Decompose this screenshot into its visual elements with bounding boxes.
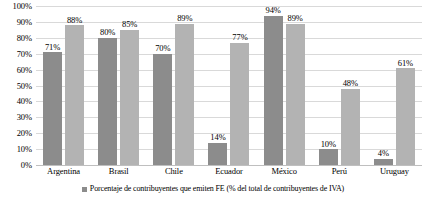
bar-slot: 14%	[208, 6, 227, 165]
y-axis-tick-label: 100%	[0, 2, 32, 11]
bar-value-label: 14%	[210, 133, 225, 142]
y-axis-tick-label: 10%	[0, 145, 32, 154]
bar[interactable]	[319, 149, 338, 165]
bar-group: 70%89%	[146, 6, 201, 165]
bar-slot: 4%	[374, 6, 393, 165]
y-axis-tick-label: 40%	[0, 97, 32, 106]
bar[interactable]	[230, 43, 249, 165]
bar[interactable]	[65, 25, 84, 165]
bar-group: 10%48%	[312, 6, 367, 165]
bar-slot: 61%	[396, 6, 415, 165]
x-axis-category-label: Uruguay	[367, 167, 422, 176]
y-axis-tick-label: 20%	[0, 129, 32, 138]
bar-slot: 88%	[65, 6, 84, 165]
bar-slot: 80%	[98, 6, 117, 165]
plot-area: 71%88%80%85%70%89%14%77%94%89%10%48%4%61…	[36, 6, 422, 165]
y-axis-tick-label: 90%	[0, 18, 32, 27]
bar-slot: 70%	[153, 6, 172, 165]
x-axis-category-label: Ecuador	[201, 167, 256, 176]
y-axis: 100%90%80%70%60%50%40%30%20%10%0%	[0, 6, 32, 165]
x-axis-category-label: Brasil	[91, 167, 146, 176]
legend-label: Porcentaje de contribuyentes que emiten …	[90, 185, 344, 193]
y-axis-tick-label: 80%	[0, 34, 32, 43]
bar-slot: 89%	[286, 6, 305, 165]
bar-group: 94%89%	[257, 6, 312, 165]
chart-legend: Porcentaje de contribuyentes que emiten …	[0, 185, 426, 193]
bar-group: 14%77%	[201, 6, 256, 165]
bar[interactable]	[286, 24, 305, 166]
bar[interactable]	[264, 16, 283, 165]
y-axis-tick-label: 70%	[0, 49, 32, 58]
bar-value-label: 70%	[155, 44, 170, 53]
bar-slot: 89%	[175, 6, 194, 165]
bar-value-label: 89%	[177, 14, 192, 23]
bar-chart: 100%90%80%70%60%50%40%30%20%10%0% 71%88%…	[0, 0, 426, 198]
bar[interactable]	[98, 38, 117, 165]
bar-group: 71%88%	[36, 6, 91, 165]
bar-group: 80%85%	[91, 6, 146, 165]
x-axis-category-label: Chile	[146, 167, 201, 176]
x-axis-category-label: Argentina	[36, 167, 91, 176]
bar-slot: 94%	[264, 6, 283, 165]
y-axis-tick-label: 0%	[0, 161, 32, 170]
bar-value-label: 10%	[321, 140, 336, 149]
bar-value-label: 85%	[122, 20, 137, 29]
bar-group: 4%61%	[367, 6, 422, 165]
bar[interactable]	[153, 54, 172, 165]
bar[interactable]	[208, 143, 227, 165]
legend-square-icon	[82, 187, 87, 192]
bar-value-label: 94%	[265, 6, 280, 15]
bar-value-label: 77%	[232, 33, 247, 42]
bar[interactable]	[396, 68, 415, 165]
bar-value-label: 61%	[398, 59, 413, 68]
bar-value-label: 88%	[67, 16, 82, 25]
bar[interactable]	[120, 30, 139, 165]
bar[interactable]	[374, 159, 393, 165]
bar-value-label: 89%	[287, 14, 302, 23]
bar-value-label: 71%	[45, 43, 60, 52]
bar-value-label: 48%	[343, 79, 358, 88]
bar[interactable]	[175, 24, 194, 166]
y-axis-tick-label: 30%	[0, 113, 32, 122]
x-axis-category-label: Perú	[312, 167, 367, 176]
bar-slot: 48%	[341, 6, 360, 165]
bar[interactable]	[43, 52, 62, 165]
bar-slot: 77%	[230, 6, 249, 165]
bar-value-label: 80%	[100, 28, 115, 37]
bar-groups: 71%88%80%85%70%89%14%77%94%89%10%48%4%61…	[36, 6, 422, 165]
bar-slot: 10%	[319, 6, 338, 165]
x-axis-category-label: México	[257, 167, 312, 176]
y-axis-tick-label: 60%	[0, 65, 32, 74]
bar-value-label: 4%	[378, 149, 389, 158]
x-axis: ArgentinaBrasilChileEcuadorMéxicoPerúUru…	[36, 167, 422, 176]
y-axis-tick-label: 50%	[0, 81, 32, 90]
bar[interactable]	[341, 89, 360, 165]
bar-slot: 85%	[120, 6, 139, 165]
bar-slot: 71%	[43, 6, 62, 165]
